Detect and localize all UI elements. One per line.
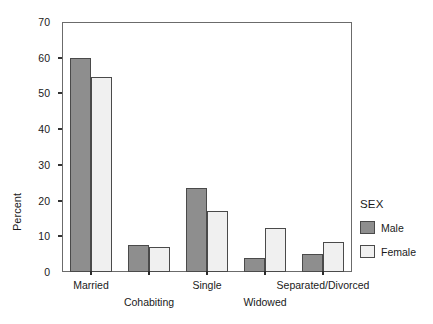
x-tick-label: Single — [192, 280, 221, 291]
x-tick-label: Married — [73, 280, 109, 291]
x-tick-mark — [148, 271, 151, 275]
bar-chart: Percent 010203040506070 MarriedCohabitin… — [0, 0, 433, 324]
legend-item: Male — [360, 221, 433, 234]
y-tick-label: 30 — [28, 160, 50, 171]
x-tick-label: Cohabiting — [124, 297, 174, 308]
x-tick-mark — [322, 271, 325, 275]
bar — [323, 242, 344, 272]
legend-title: SEX — [360, 198, 433, 210]
y-tick-label: 40 — [28, 124, 50, 135]
y-tick-label: 20 — [28, 196, 50, 207]
y-tick-label: 50 — [28, 88, 50, 99]
bars-layer — [62, 22, 352, 272]
y-tick-label: 0 — [28, 267, 50, 278]
x-tick-label: Widowed — [243, 297, 286, 308]
legend-swatch-icon — [360, 245, 375, 258]
bar — [70, 58, 91, 272]
legend-entries: MaleFemale — [360, 221, 433, 258]
bar — [244, 258, 265, 272]
legend: SEX MaleFemale — [360, 198, 433, 269]
bar — [265, 228, 286, 272]
bar — [207, 211, 228, 272]
legend-item-label: Female — [381, 246, 416, 258]
bar — [302, 254, 323, 272]
y-tick-label: 60 — [28, 53, 50, 64]
bar — [186, 188, 207, 272]
legend-item: Female — [360, 245, 433, 258]
y-tick-label: 10 — [28, 231, 50, 242]
x-tick-mark — [90, 271, 93, 275]
y-tick-label: 70 — [28, 17, 50, 28]
y-axis-title: Percent — [11, 172, 23, 252]
x-tick-mark — [264, 271, 267, 275]
bar — [91, 77, 112, 272]
bar — [149, 247, 170, 272]
x-tick-mark — [206, 271, 209, 275]
legend-item-label: Male — [381, 222, 404, 234]
legend-swatch-icon — [360, 221, 375, 234]
x-tick-label: Separated/Divorced — [277, 280, 370, 291]
bar — [128, 245, 149, 272]
